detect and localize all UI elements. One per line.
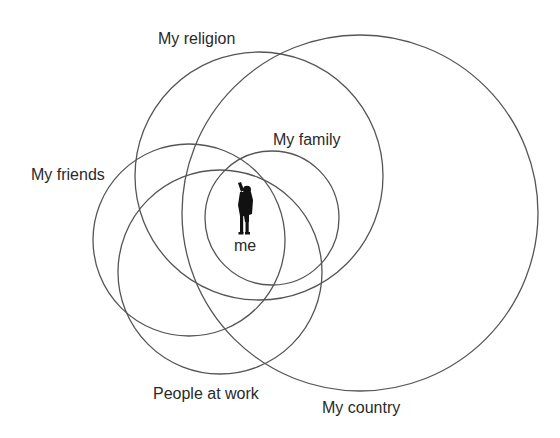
label-my-religion: My religion bbox=[158, 31, 235, 47]
label-my-country: My country bbox=[322, 400, 400, 416]
person-silhouette-icon bbox=[238, 182, 253, 235]
label-my-family: My family bbox=[273, 132, 341, 148]
circle-people-at-work bbox=[118, 170, 322, 374]
circle-my-family bbox=[205, 151, 339, 285]
circle-my-religion bbox=[135, 52, 383, 300]
label-people-at-work: People at work bbox=[153, 386, 259, 402]
circles-layer bbox=[0, 0, 560, 438]
circle-my-country bbox=[182, 35, 538, 391]
label-me: me bbox=[234, 238, 256, 254]
label-my-friends: My friends bbox=[31, 167, 105, 183]
identity-circles-diagram: My religion My family My friends People … bbox=[0, 0, 560, 438]
